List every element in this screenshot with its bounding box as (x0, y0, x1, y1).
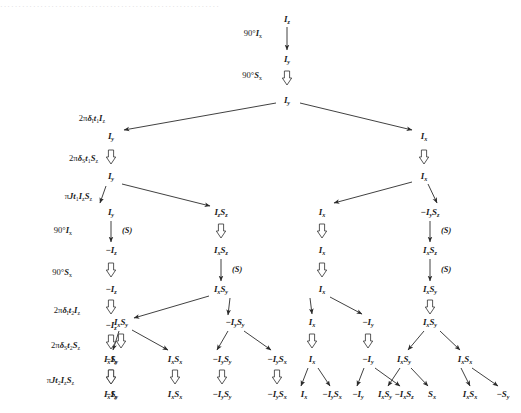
branch-arrow (330, 297, 362, 314)
operator-label: 90°Sx (52, 268, 72, 277)
product-operator-node: Ix (319, 208, 325, 217)
branch-arrow (334, 182, 412, 203)
product-operator-node: IxSy (397, 355, 411, 364)
branch-arrow (124, 103, 276, 130)
operator-label: 90°Ix (244, 29, 262, 38)
branch-arrow (318, 368, 330, 386)
branch-arrow (357, 368, 364, 386)
product-operator-node: IxSy (104, 390, 118, 399)
branch-arrow (375, 368, 400, 386)
product-operator-node: −Iz (105, 246, 116, 255)
operator-label: πJt1IzSz (65, 192, 92, 201)
branch-arrow (134, 296, 209, 318)
double-arrow (363, 334, 372, 348)
single-arrow-group (111, 27, 430, 281)
figure-canvas: ········································… (0, 0, 521, 413)
product-operator-node: −IySz (421, 208, 440, 217)
product-operator-node: IxSy (423, 318, 437, 327)
double-arrow (419, 150, 428, 164)
branch-arrow (122, 184, 210, 206)
product-operator-node: Iy (108, 172, 114, 181)
branch-arrow (472, 368, 498, 386)
product-operator-node: IxSy (214, 285, 228, 294)
product-operator-node: IxSz (423, 246, 437, 255)
product-operator-node: IxSz (214, 246, 228, 255)
product-operator-node: Iy (108, 132, 114, 141)
double-arrow (425, 300, 434, 314)
product-operator-node: Iy (108, 208, 114, 217)
product-operator-node: Iz (284, 15, 290, 24)
product-operator-node: Iy (284, 96, 290, 105)
product-operator-node: −IySy (212, 355, 231, 364)
branch-arrow (228, 298, 230, 315)
branch-arrow-group (100, 103, 498, 386)
product-operator-node: −IySy (225, 318, 244, 327)
double-arrow (106, 370, 115, 384)
double-arrow (217, 370, 226, 384)
double-arrow (106, 263, 115, 277)
double-arrow (106, 150, 115, 164)
operator-label: 2πδSt1Sz (69, 154, 98, 163)
product-operator-node: IxSx (458, 355, 472, 364)
product-operator-node: −Sy (497, 390, 510, 399)
operator-label: 90°Ix (54, 226, 72, 235)
product-operator-node: IzSz (214, 208, 227, 217)
branch-arrow (408, 331, 424, 350)
branch-arrow (132, 330, 168, 350)
branch-arrow (428, 184, 437, 203)
product-operator-node: Ix (301, 390, 307, 399)
double-arrow (272, 370, 281, 384)
double-arrow (317, 263, 326, 277)
double-arrow (106, 300, 115, 314)
product-operator-node: IxSy (114, 318, 128, 327)
operator-label: 2πδIt1Iz (79, 114, 105, 123)
double-arrow (282, 71, 291, 85)
product-operator-node: Ix (421, 132, 427, 141)
product-operator-node: −IySx (267, 390, 286, 399)
branch-arrow (300, 103, 412, 130)
product-operator-node: −Iy (362, 355, 373, 364)
product-operator-node: IxSx (168, 355, 182, 364)
product-operator-node: −Iy (352, 390, 363, 399)
branch-arrow (440, 331, 460, 350)
product-operator-node: IxSx (463, 390, 477, 399)
spin-annotation: (S) (232, 266, 242, 274)
product-operator-node: Iy (284, 55, 290, 64)
branch-arrow (411, 368, 428, 386)
operator-label: 2πδSt2Sz (51, 341, 80, 350)
product-operator-node: −IySx (322, 390, 341, 399)
product-operator-node: −Iz (105, 285, 116, 294)
operator-label: 90°Sx (242, 71, 262, 80)
product-operator-node: −Iy (362, 318, 373, 327)
product-operator-node: IxSx (168, 390, 182, 399)
double-arrow (216, 224, 225, 238)
product-operator-node: Ix (309, 318, 315, 327)
spin-annotation: (S) (441, 266, 451, 274)
branch-arrow (217, 331, 228, 350)
double-arrow (307, 334, 316, 348)
operator-label: πJt2IzSz (47, 376, 74, 385)
connector-layer (0, 0, 521, 413)
branch-arrow (244, 331, 271, 350)
branch-arrow (388, 368, 400, 386)
product-operator-node: Ix (319, 246, 325, 255)
operator-label: 2πδIt2Iz (54, 306, 80, 315)
product-operator-node: Ix (319, 285, 325, 294)
product-operator-node: IxSy (378, 390, 392, 399)
product-operator-node: IxSy (104, 355, 118, 364)
branch-arrow (100, 186, 106, 203)
product-operator-node: Sx (428, 390, 436, 399)
branch-arrow (461, 368, 470, 386)
product-operator-node: −IySy (212, 390, 231, 399)
double-arrow-group (106, 71, 434, 384)
product-operator-node: Ix (309, 355, 315, 364)
spin-annotation: (S) (441, 227, 451, 235)
branch-arrow (301, 368, 308, 386)
spin-annotation: (S) (122, 227, 132, 235)
double-arrow (317, 224, 326, 238)
product-operator-node: Ix (421, 172, 427, 181)
product-operator-node: IxSy (423, 285, 437, 294)
product-operator-node: −IxSz (394, 390, 413, 399)
branch-arrow (310, 298, 312, 314)
double-arrow (170, 370, 179, 384)
